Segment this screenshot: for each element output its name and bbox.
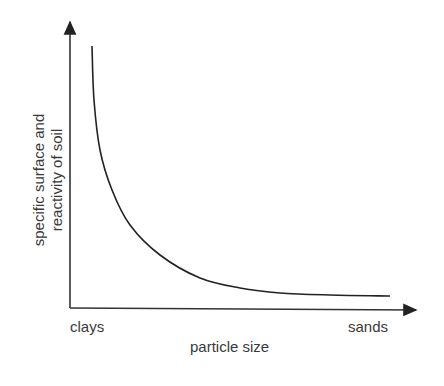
data-curve — [92, 46, 390, 296]
x-tick-label-sands: sands — [348, 318, 388, 335]
x-axis-label: particle size — [190, 338, 269, 355]
y-axis-label-line-1: specific surface and — [30, 114, 48, 247]
x-axis — [70, 308, 416, 310]
y-axis-label-line-2: reactivity of soil — [48, 114, 66, 247]
y-axis-label: specific surface and reactivity of soil — [30, 114, 66, 247]
x-tick-label-clays: clays — [70, 318, 104, 335]
